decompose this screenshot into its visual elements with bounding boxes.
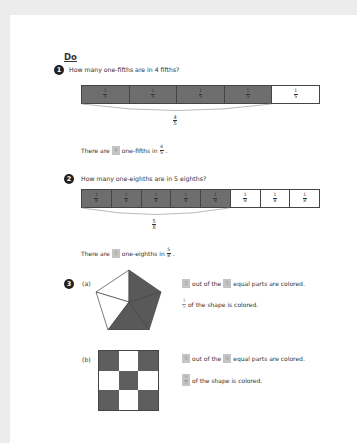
fraction-bar-eighths: 18 18 18 18 18 18 18 18: [81, 189, 320, 208]
checkerboard-grid: [98, 350, 159, 411]
bar-cell: 18: [112, 190, 142, 207]
fraction-bar-fifths: 15 15 15 15 15: [81, 85, 320, 104]
part-b-line-2: 59 of the shape is colored.: [182, 374, 262, 386]
part-a-line-2: 35 of the shape is colored.: [182, 299, 258, 309]
worksheet-page: Do 1 How many one-fifths are in 4 fifths…: [10, 15, 357, 443]
grid-cell: [99, 390, 119, 410]
grid-cell: [119, 371, 139, 391]
bar-cell: 18: [201, 190, 231, 207]
pentagon-shape: [94, 268, 164, 330]
answer-box: 5: [223, 279, 231, 288]
answer-box: 5: [182, 354, 190, 363]
bar-cell: 15: [225, 86, 273, 103]
bar-cell: 15: [130, 86, 178, 103]
question-2-number: 2: [64, 174, 74, 184]
bar-cell: 18: [82, 190, 112, 207]
bar-cell: 15: [82, 86, 130, 103]
answer-box: 3: [182, 279, 190, 288]
grid-cell: [138, 390, 158, 410]
brace-label: 58: [152, 214, 156, 233]
bar-cell: 18: [261, 190, 291, 207]
question-1-prompt: How many one-fifths are in 4 fifths?: [69, 66, 179, 73]
answer-sentence-2: There are 5 one-eighths in 58.: [81, 248, 175, 258]
part-b-label: (b): [82, 356, 91, 363]
answer-box: 5: [112, 249, 120, 258]
answer-sentence-1: There are 4 one-fifths in 45.: [81, 145, 167, 155]
grid-cell: [138, 351, 158, 371]
bar-cell: 15: [272, 86, 319, 103]
bar-cell: 15: [177, 86, 225, 103]
grid-cell: [119, 351, 139, 371]
grid-cell: [99, 371, 119, 391]
question-3-number: 3: [64, 279, 74, 289]
grid-cell: [99, 351, 119, 371]
question-1-number: 1: [54, 65, 64, 75]
section-heading: Do: [64, 52, 77, 62]
answer-box: 9: [223, 354, 231, 363]
part-b-line-1: 5 out of the 9 equal parts are colored.: [182, 354, 305, 363]
bar-cell: 18: [231, 190, 261, 207]
grid-cell: [119, 390, 139, 410]
part-a-line-1: 3 out of the 5 equal parts are colored.: [182, 279, 305, 288]
bar-cell: 18: [290, 190, 319, 207]
bar-cell: 18: [142, 190, 172, 207]
bar-cell: 18: [171, 190, 201, 207]
part-a-label: (a): [82, 280, 91, 287]
answer-box: 59: [182, 374, 190, 386]
answer-box: 4: [112, 146, 120, 155]
brace-label: 45: [173, 110, 177, 129]
grid-cell: [138, 371, 158, 391]
question-2-prompt: How many one-eighths are in 5 eighths?: [81, 175, 206, 182]
